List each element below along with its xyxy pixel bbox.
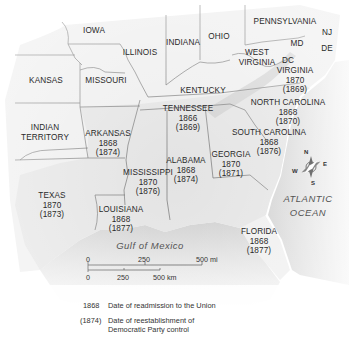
democratic-control-year: (1873) — [38, 210, 65, 220]
readmission-year: 1870 — [277, 76, 314, 86]
state-label-md: MD — [291, 39, 304, 49]
state-label-dc: DC — [282, 56, 294, 66]
state-label-indian-territory-1: INDIAN — [31, 123, 59, 133]
scale-mi-500: 500 mi — [196, 255, 218, 264]
readmission-year: 1870 — [38, 201, 65, 211]
democratic-control-year: (1870) — [251, 117, 326, 127]
state-name: SOUTH CAROLINA — [232, 128, 306, 138]
readmission-year: 1868 — [99, 215, 144, 225]
legend-text-democratic-2: Democratic Party control — [108, 325, 189, 334]
readmission-year: 1868 — [85, 139, 130, 149]
democratic-control-year: (1874) — [85, 148, 130, 158]
democratic-control-year: (1871) — [212, 169, 251, 179]
state-label-de: DE — [321, 44, 333, 54]
state-label-louisiana: LOUISIANA 1868 (1877) — [99, 205, 144, 234]
state-name: NORTH CAROLINA — [251, 98, 326, 108]
compass-w: W — [292, 168, 298, 174]
state-label-west-virginia-1: WEST — [245, 48, 269, 58]
democratic-control-year: (1869) — [163, 123, 214, 133]
scale-km-500: 500 km — [153, 273, 177, 282]
water-label-atlantic: ATLANTIC — [283, 193, 332, 205]
state-label-illinois: ILLINOIS — [123, 48, 157, 58]
state-label-nj: NJ — [322, 28, 332, 38]
state-label-indian-territory-2: TERRITORY — [21, 133, 69, 143]
scale-mi-250: 250 — [138, 255, 150, 264]
state-name: ALABAMA — [166, 156, 205, 166]
state-label-pennsylvania: PENNSYLVANIA — [254, 17, 317, 27]
state-label-ohio: OHIO — [208, 32, 229, 42]
state-label-north-carolina: NORTH CAROLINA 1868 (1870) — [251, 98, 326, 127]
water-label-ocean: OCEAN — [290, 207, 326, 219]
legend-key-1868: 1868 — [83, 301, 99, 310]
state-label-indiana: INDIANA — [166, 38, 200, 48]
legend-text-readmission: Date of readmission to the Union — [108, 301, 216, 310]
compass-n: N — [304, 149, 308, 155]
state-name: GEORGIA — [212, 150, 251, 160]
readmission-year: 1870 — [123, 178, 173, 188]
state-label-florida: FLORIDA 1868 (1877) — [241, 227, 277, 256]
democratic-control-year: (1877) — [99, 224, 144, 234]
state-name: FLORIDA — [241, 227, 277, 237]
democratic-control-year: (1877) — [241, 246, 277, 256]
state-label-texas: TEXAS 1870 (1873) — [38, 191, 65, 220]
state-label-kentucky: KENTUCKY — [180, 86, 225, 96]
readmission-year: 1868 — [232, 138, 306, 148]
scale-km-250: 250 — [117, 273, 129, 282]
state-label-tennessee: TENNESSEE 1866 (1869) — [163, 104, 214, 133]
scale-mi-0: 0 — [86, 255, 90, 264]
state-label-georgia: GEORGIA 1870 (1871) — [212, 150, 251, 179]
readmission-year: 1870 — [212, 160, 251, 170]
state-label-kansas: KANSAS — [29, 76, 63, 86]
scale-km-0: 0 — [86, 273, 90, 282]
legend-text-democratic-1: Date of reestablishment of — [108, 316, 194, 325]
compass-s: S — [311, 180, 315, 186]
state-name: VIRGINIA — [277, 66, 314, 76]
state-name: MISSISSIPPI — [123, 168, 173, 178]
state-label-west-virginia-2: VIRGINIA — [239, 58, 276, 68]
readmission-year: 1866 — [163, 114, 214, 124]
state-label-mississippi: MISSISSIPPI 1870 (1876) — [123, 168, 173, 197]
state-name: LOUISIANA — [99, 205, 144, 215]
democratic-control-year: (1869) — [277, 85, 314, 95]
state-label-virginia: VIRGINIA 1870 (1869) — [277, 66, 314, 95]
state-label-arkansas: ARKANSAS 1868 (1874) — [85, 129, 130, 158]
readmission-year: 1868 — [241, 237, 277, 247]
compass-e: E — [323, 161, 327, 167]
state-name: TENNESSEE — [163, 104, 214, 114]
legend-key-1874: (1874) — [80, 316, 101, 325]
state-name: TEXAS — [38, 191, 65, 201]
state-name: ARKANSAS — [85, 129, 130, 139]
state-label-iowa: IOWA — [83, 26, 105, 36]
state-label-missouri: MISSOURI — [85, 76, 126, 86]
water-label-gulf: Gulf of Mexico — [116, 240, 184, 252]
readmission-year: 1868 — [251, 108, 326, 118]
democratic-control-year: (1876) — [123, 187, 173, 197]
